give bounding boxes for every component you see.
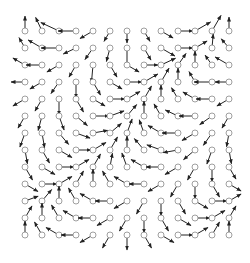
tail-circle-icon bbox=[209, 28, 215, 34]
vector-arrow bbox=[196, 96, 215, 102]
arrow-shaft bbox=[181, 220, 191, 226]
vector-arrow bbox=[80, 194, 96, 205]
arrow-shaft bbox=[61, 135, 69, 144]
arrow-shaft bbox=[214, 15, 222, 28]
vector-arrow bbox=[22, 16, 28, 34]
vector-arrow bbox=[39, 190, 52, 204]
arrow-shaft bbox=[200, 118, 210, 125]
arrow-shaft bbox=[120, 221, 126, 231]
arrow-shaft bbox=[130, 92, 140, 98]
vector-arrow bbox=[141, 232, 152, 248]
vector-arrow bbox=[30, 79, 45, 89]
vector-arrow bbox=[56, 96, 62, 115]
tail-circle-icon bbox=[209, 96, 215, 102]
tail-circle-icon bbox=[226, 45, 232, 51]
tail-circle-icon bbox=[226, 215, 232, 221]
vector-arrow bbox=[56, 177, 72, 188]
tail-circle-icon bbox=[124, 147, 130, 153]
arrow-shaft bbox=[231, 170, 237, 180]
tail-circle-icon bbox=[73, 113, 79, 119]
vector-arrow bbox=[73, 96, 84, 112]
vector-arrow bbox=[120, 215, 131, 231]
arrow-shaft bbox=[27, 206, 33, 216]
arrow-shaft bbox=[112, 123, 121, 131]
tail-circle-icon bbox=[90, 45, 96, 51]
tail-circle-icon bbox=[175, 147, 181, 153]
vector-arrow bbox=[192, 198, 208, 209]
vector-arrow bbox=[22, 196, 38, 204]
arrow-shaft bbox=[52, 205, 58, 215]
vector-arrow bbox=[39, 164, 55, 175]
arrow-shaft bbox=[198, 203, 208, 209]
tail-circle-icon bbox=[90, 28, 96, 34]
tail-circle-icon bbox=[22, 147, 28, 153]
vector-arrow bbox=[104, 28, 113, 41]
vector-arrow bbox=[18, 113, 28, 128]
tail-circle-icon bbox=[124, 45, 130, 51]
arrow-shaft bbox=[114, 203, 124, 209]
tail-circle-icon bbox=[107, 130, 113, 136]
tail-circle-icon bbox=[107, 232, 113, 238]
arrow-shaft bbox=[80, 194, 90, 200]
tail-circle-icon bbox=[192, 215, 198, 221]
arrow-shaft bbox=[28, 40, 39, 47]
vector-arrow bbox=[47, 62, 62, 72]
vector-arrow bbox=[175, 232, 193, 238]
vector-arrow bbox=[90, 169, 96, 187]
arrow-shaft bbox=[28, 196, 38, 200]
arrow-shaft bbox=[80, 237, 90, 243]
tail-circle-icon bbox=[192, 147, 198, 153]
vector-arrow bbox=[124, 62, 139, 72]
tail-circle-icon bbox=[226, 232, 232, 238]
vector-arrow bbox=[26, 62, 45, 68]
arrow-shaft bbox=[205, 55, 210, 62]
tail-circle-icon bbox=[39, 181, 45, 187]
vector-arrow bbox=[141, 215, 147, 233]
arrow-shaft bbox=[207, 153, 211, 164]
vector-arrow bbox=[175, 68, 181, 85]
vector-arrow bbox=[158, 28, 173, 38]
arrow-shaft bbox=[147, 145, 158, 149]
arrow-shaft bbox=[18, 119, 24, 129]
vector-arrow bbox=[46, 228, 62, 239]
tail-circle-icon bbox=[56, 62, 62, 68]
tail-circle-icon bbox=[141, 130, 147, 136]
vector-arrow bbox=[39, 181, 57, 187]
arrow-shaft bbox=[230, 153, 232, 164]
arrow-shaft bbox=[111, 153, 113, 164]
vector-arrow bbox=[141, 86, 152, 102]
tail-circle-icon bbox=[158, 113, 164, 119]
arrow-shaft bbox=[164, 237, 174, 243]
tail-circle-icon bbox=[175, 164, 181, 170]
tail-circle-icon bbox=[192, 232, 198, 238]
vector-arrow bbox=[107, 62, 117, 77]
arrow-shaft bbox=[164, 33, 174, 39]
vector-arrow bbox=[22, 221, 28, 238]
vector-arrow bbox=[192, 22, 211, 34]
tail-circle-icon bbox=[39, 28, 45, 34]
arrow-shaft bbox=[189, 72, 194, 80]
vector-arrow bbox=[175, 198, 186, 214]
arrow-shaft bbox=[146, 51, 152, 61]
arrow-shaft bbox=[20, 136, 24, 147]
vector-arrow bbox=[205, 55, 215, 68]
arrow-shaft bbox=[96, 101, 106, 107]
vector-arrow bbox=[73, 79, 79, 98]
tail-circle-icon bbox=[90, 232, 96, 238]
tail-circle-icon bbox=[141, 198, 147, 204]
tail-circle-icon bbox=[226, 130, 232, 136]
vector-arrow bbox=[80, 232, 96, 243]
arrow-shaft bbox=[28, 186, 38, 192]
tail-circle-icon bbox=[158, 62, 164, 68]
vector-arrow bbox=[90, 79, 101, 95]
arrow-shaft bbox=[46, 228, 56, 234]
arrow-shaft bbox=[232, 194, 242, 200]
vector-arrow bbox=[69, 188, 80, 204]
tail-circle-icon bbox=[56, 198, 62, 204]
arrow-shaft bbox=[35, 102, 41, 112]
vector-arrow bbox=[90, 96, 105, 106]
tail-circle-icon bbox=[175, 79, 181, 85]
vector-arrow bbox=[209, 222, 220, 238]
arrow-shaft bbox=[134, 139, 142, 148]
tail-circle-icon bbox=[22, 96, 28, 102]
